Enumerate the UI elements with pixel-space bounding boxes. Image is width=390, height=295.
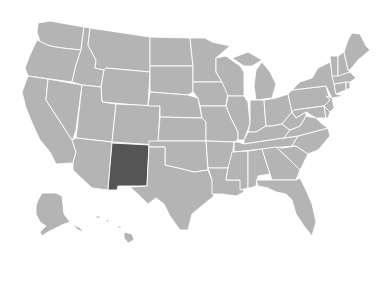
us-map-svg: WashingtonOregonCaliforniaNevadaIdahoMon… xyxy=(0,0,390,295)
state-kansas[interactable]: Kansas xyxy=(158,117,206,141)
state-colorado[interactable]: Colorado xyxy=(112,104,160,145)
state-rhode-island[interactable]: Rhode Island xyxy=(346,82,350,90)
state-new-mexico[interactable]: New Mexico xyxy=(108,143,149,190)
state-wyoming[interactable]: Wyoming xyxy=(101,68,150,106)
state-maine[interactable]: Maine xyxy=(344,33,370,70)
state-florida[interactable]: Florida xyxy=(256,178,316,236)
state-arizona[interactable]: Arizona xyxy=(72,138,112,190)
state-montana[interactable]: Montana xyxy=(88,28,150,72)
state-alaska[interactable]: Alaska xyxy=(36,193,84,236)
state-hawaii[interactable]: Hawaii xyxy=(96,216,134,243)
us-map: WashingtonOregonCaliforniaNevadaIdahoMon… xyxy=(0,0,390,295)
state-south-dakota[interactable]: South Dakota xyxy=(150,66,193,95)
state-north-dakota[interactable]: North Dakota xyxy=(150,37,193,66)
